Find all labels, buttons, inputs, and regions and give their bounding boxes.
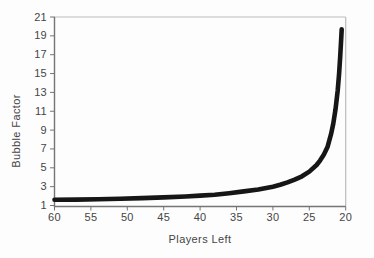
y-tick-label-5: 5 xyxy=(20,161,47,174)
bubble-factor-curve xyxy=(55,29,342,200)
x-tick-label-50: 50 xyxy=(114,211,140,224)
x-tick-label-55: 55 xyxy=(78,211,104,224)
y-tick-label-21: 21 xyxy=(20,11,47,24)
y-tick-label-3: 3 xyxy=(20,180,47,193)
y-tick-label-11: 11 xyxy=(20,105,47,118)
x-tick-label-60: 60 xyxy=(42,211,68,224)
y-tick-label-19: 19 xyxy=(20,29,47,42)
x-tick-label-35: 35 xyxy=(224,211,250,224)
y-tick-label-15: 15 xyxy=(20,67,47,80)
x-tick-label-25: 25 xyxy=(296,211,322,224)
x-tick-label-40: 40 xyxy=(187,211,213,224)
x-axis-title: Players Left xyxy=(54,233,346,245)
y-tick-label-17: 17 xyxy=(20,48,47,61)
y-tick-label-13: 13 xyxy=(20,86,47,99)
y-tick-label-9: 9 xyxy=(20,124,47,137)
y-tick-label-7: 7 xyxy=(20,142,47,155)
y-axis-title: Bubble Factor xyxy=(10,66,22,196)
x-tick-label-20: 20 xyxy=(333,211,359,224)
x-tick-label-45: 45 xyxy=(151,211,177,224)
x-tick-label-30: 30 xyxy=(260,211,286,224)
bubble-factor-figure: 21191715131197531 605550454035302520 Bub… xyxy=(0,0,374,258)
